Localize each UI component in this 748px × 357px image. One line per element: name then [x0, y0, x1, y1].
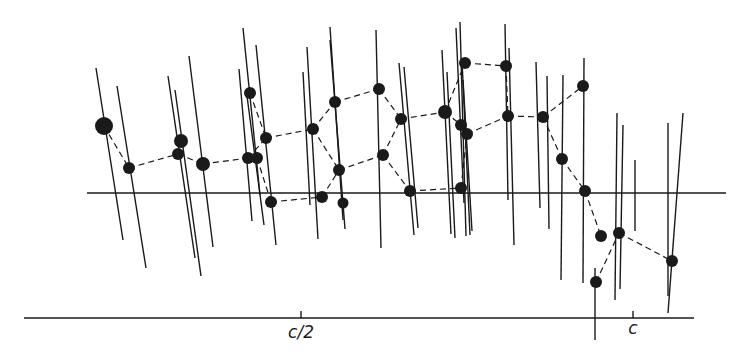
atom-dot — [244, 87, 256, 99]
bond-dashed-line — [313, 129, 339, 170]
dashed-bonds — [104, 63, 672, 282]
atom-dot — [595, 230, 607, 242]
atom-dot — [537, 111, 549, 123]
rod-line — [547, 76, 549, 229]
atom-dot — [459, 57, 471, 69]
rod-line — [256, 45, 276, 245]
rod-line — [447, 72, 455, 238]
bond-dashed-line — [129, 154, 178, 168]
atom-dot — [577, 80, 589, 92]
rod-line — [168, 76, 195, 258]
atom-dot — [579, 185, 591, 197]
bond-dashed-line — [339, 155, 383, 170]
axis-ticks — [301, 311, 633, 318]
rod-line — [509, 48, 514, 245]
atom-dot — [329, 96, 341, 108]
atom-dot — [590, 276, 602, 288]
atom-dot — [333, 164, 345, 176]
bond-dashed-line — [465, 63, 506, 66]
bond-dashed-line — [335, 89, 379, 102]
atom-dot — [95, 117, 113, 135]
rod-line — [620, 125, 623, 289]
atom-dot — [373, 83, 385, 95]
rod-line — [307, 47, 318, 239]
rod-line — [442, 50, 451, 234]
atom-dot — [438, 105, 452, 119]
atom-dot — [377, 149, 389, 161]
rod-line — [117, 86, 146, 268]
atom-dot — [123, 162, 135, 174]
atom-dot — [265, 196, 277, 208]
atom-dot — [338, 198, 349, 209]
bond-dashed-line — [619, 233, 672, 261]
atom-dot — [174, 134, 188, 148]
atom-dot — [316, 191, 328, 203]
atom-dot — [556, 153, 568, 165]
crystal-structure-diagram — [0, 0, 748, 357]
atom-dot — [307, 123, 319, 135]
atom-dot — [613, 227, 625, 239]
atom-dot — [395, 113, 407, 125]
atom-dot — [461, 128, 473, 140]
axis-label-c-half: c/2 — [288, 322, 314, 342]
atom-dot — [251, 152, 263, 164]
bond-dashed-line — [585, 191, 601, 236]
atom-dot — [260, 132, 272, 144]
atom-rods — [96, 22, 683, 340]
rod-line — [376, 30, 381, 248]
atom-dot — [500, 60, 512, 72]
bond-dashed-line — [467, 116, 508, 134]
atom-dot — [196, 157, 210, 171]
atom-dot — [455, 182, 467, 194]
bond-dashed-line — [271, 197, 322, 202]
atom-dot — [666, 255, 678, 267]
atom-dot — [172, 148, 184, 160]
rod-line — [536, 62, 540, 208]
rod-line — [561, 75, 563, 280]
rod-line — [668, 113, 683, 313]
atom-dot — [502, 110, 514, 122]
rod-line — [615, 113, 617, 300]
bond-dashed-line — [383, 155, 410, 191]
atom-dot — [404, 185, 416, 197]
bond-dashed-line — [543, 117, 562, 159]
axis-label-c: c — [628, 318, 637, 338]
bond-dashed-line — [383, 119, 401, 155]
